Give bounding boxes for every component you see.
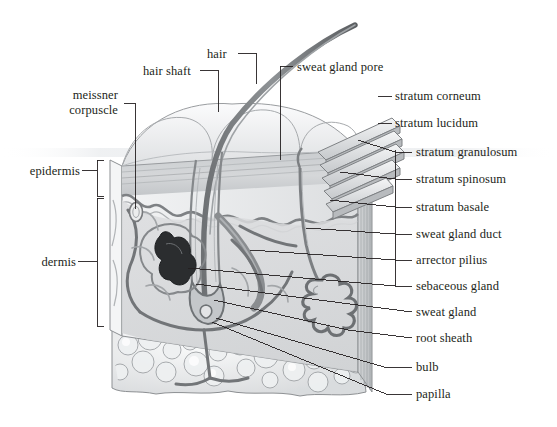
leader-hair [238,53,256,84]
label-arrector-pilius: arrector pilius [416,253,487,267]
label-stratum-basale: stratum basale [416,200,489,214]
skin-anatomy-diagram: meissner corpuscle epidermis dermis hair… [0,0,557,427]
bracket-epidermis [97,160,104,196]
label-epidermis: epidermis [0,164,80,178]
label-meissner-corpuscle: meissner corpuscle [0,88,118,119]
label-stratum-spinosum: stratum spinosum [416,172,506,186]
label-papilla: papilla [416,387,451,401]
label-sweat-gland-duct: sweat gland duct [416,227,502,241]
label-sweat-gland: sweat gland [416,305,476,319]
label-sebaceous-gland: sebaceous gland [416,279,499,293]
label-bulb: bulb [416,360,439,374]
meissner-corpuscle [130,203,143,222]
label-stratum-corneum: stratum corneum [395,89,481,103]
label-stratum-lucidum: stratum lucidum [395,116,478,130]
bracket-dermis [97,198,104,326]
label-sweat-gland-pore: sweat gland pore [297,60,383,74]
block-left-wall [110,160,122,336]
dermal-papilla [200,305,212,318]
label-hair: hair [207,47,227,61]
label-root-sheath: root sheath [416,331,472,345]
label-hair-shaft: hair shaft [143,64,191,78]
label-dermis: dermis [0,255,76,269]
label-stratum-granulosum: stratum granulosum [416,145,517,159]
